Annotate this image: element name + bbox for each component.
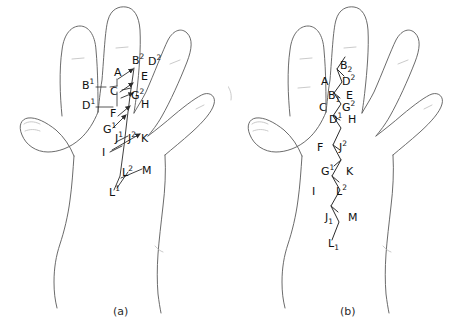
label-b-B2: B2 bbox=[340, 60, 352, 71]
label-a-B2: B2 bbox=[132, 55, 144, 66]
label-a-M: M bbox=[142, 165, 152, 176]
hand-outline-b bbox=[228, 7, 442, 313]
panel-a-drawing bbox=[0, 0, 227, 331]
label-a-C: C bbox=[110, 86, 118, 97]
label-b-D2: D2 bbox=[342, 76, 355, 87]
label-a-H: H bbox=[141, 99, 149, 110]
label-a-B1: B1 bbox=[82, 80, 94, 91]
label-a-I: I bbox=[102, 147, 105, 158]
label-b-C: C bbox=[319, 102, 327, 113]
label-a-J1: J1 bbox=[115, 133, 123, 144]
panel-a: B2 D2 A E B1 C G2 H D1 F G1 J1 J2 K I L2… bbox=[0, 0, 227, 331]
label-a-E: E bbox=[141, 71, 148, 82]
label-a-D1: D1 bbox=[82, 100, 95, 111]
label-b-M: M bbox=[348, 212, 358, 223]
label-a-A: A bbox=[114, 67, 122, 78]
label-b-G2: G2 bbox=[342, 102, 355, 113]
panel-b-drawing bbox=[228, 0, 455, 331]
label-b-I: I bbox=[312, 186, 315, 197]
label-a-K: K bbox=[141, 133, 148, 144]
label-b-J1: J1 bbox=[325, 212, 333, 223]
label-a-D2: D2 bbox=[148, 56, 161, 67]
caption-b: (b) bbox=[340, 305, 356, 318]
label-a-L1: L1 bbox=[109, 187, 120, 198]
label-b-F: F bbox=[317, 142, 323, 153]
hand-outline-a bbox=[20, 7, 214, 313]
label-b-H: H bbox=[348, 114, 356, 125]
label-b-J2: J2 bbox=[339, 142, 347, 153]
label-b-A: A bbox=[321, 76, 329, 87]
label-b-L1: L1 bbox=[328, 238, 339, 249]
figure-container: B2 D2 A E B1 C G2 H D1 F G1 J1 J2 K I L2… bbox=[0, 0, 455, 331]
label-b-D1: D1 bbox=[329, 114, 342, 125]
label-a-J2: J2 bbox=[128, 133, 136, 144]
caption-a: (a) bbox=[113, 305, 128, 318]
label-b-G1: G1 bbox=[321, 166, 334, 177]
panel-b: B2 A D2 B1 E C G2 D1 H F J2 G1 K I L2 J1… bbox=[228, 0, 455, 331]
knuckle-creases-b bbox=[298, 47, 432, 109]
label-a-L2: L2 bbox=[122, 167, 133, 178]
label-b-L2: L2 bbox=[336, 186, 347, 197]
label-a-F: F bbox=[110, 108, 116, 119]
label-b-K: K bbox=[346, 166, 353, 177]
label-b-B1: B1 bbox=[328, 90, 340, 101]
